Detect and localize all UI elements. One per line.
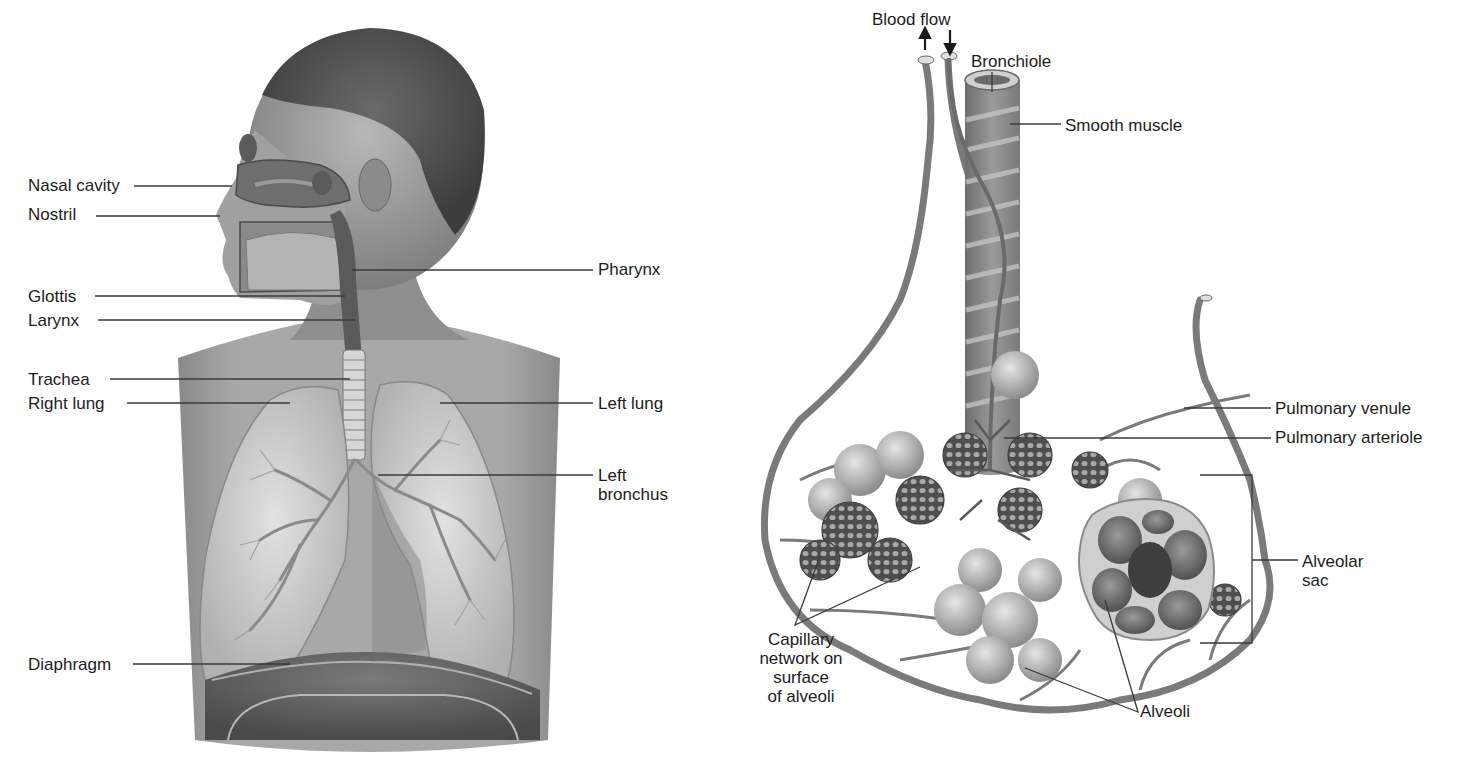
label-trachea: Trachea (28, 370, 90, 389)
label-pulmonary-venule: Pulmonary venule (1275, 399, 1411, 418)
alveoli-detail-panel: Blood flow Bronchiole Smooth muscle Pulm… (720, 0, 1460, 760)
respiratory-system-panel: Nasal cavity Nostril Glottis Larynx Trac… (0, 0, 720, 760)
label-diaphragm: Diaphragm (28, 655, 111, 674)
arrow-up-icon (920, 28, 930, 38)
label-right-lung: Right lung (28, 394, 105, 413)
respiratory-system-illustration (0, 0, 720, 760)
label-larynx: Larynx (28, 311, 79, 330)
label-capillary-network: Capillary network on surface of alveoli (726, 630, 876, 706)
label-pharynx: Pharynx (598, 260, 660, 279)
alveolar-sac-cross-section (1079, 499, 1214, 640)
blood-flow-arrows (920, 28, 955, 54)
label-bronchiole: Bronchiole (971, 52, 1051, 71)
label-nostril: Nostril (28, 205, 76, 224)
label-nasal-cavity: Nasal cavity (28, 176, 120, 195)
label-alveolar-sac: Alveolar sac (1302, 552, 1363, 590)
label-left-lung: Left lung (598, 394, 663, 413)
label-pulmonary-arteriole: Pulmonary arteriole (1275, 428, 1422, 447)
label-glottis: Glottis (28, 287, 76, 306)
label-blood-flow: Blood flow (872, 10, 950, 29)
label-smooth-muscle: Smooth muscle (1065, 116, 1182, 135)
ear-shape (359, 159, 391, 211)
tongue-shape (246, 232, 343, 290)
label-left-bronchus: Left bronchus (598, 466, 668, 504)
label-alveoli: Alveoli (1140, 702, 1190, 721)
